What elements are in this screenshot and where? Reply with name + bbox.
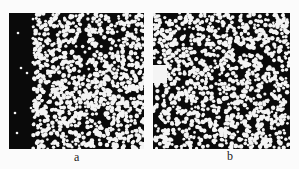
panel-b-label: b: [227, 150, 233, 162]
panel-a-label: a: [74, 151, 79, 163]
particle-image-b: [153, 13, 290, 149]
panel-b-image: [153, 13, 290, 149]
panel-a-image: [9, 13, 144, 149]
particle-image-a: [9, 13, 144, 149]
